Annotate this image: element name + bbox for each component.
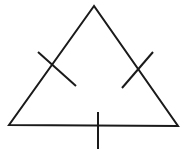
equilateral-triangle-diagram bbox=[0, 0, 186, 154]
triangle-outline bbox=[9, 6, 178, 126]
